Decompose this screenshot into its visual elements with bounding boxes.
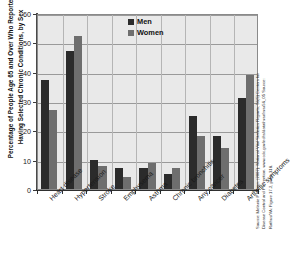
- bar-arthritic-symptoms-women: [246, 75, 254, 189]
- bar-arthritic-symptoms-men: [238, 98, 246, 189]
- chart-figure: Percentage of People Age 65 and Over Who…: [0, 0, 300, 279]
- y-axis-tick-labels: 0102030405060: [14, 12, 34, 190]
- source-line-3: Rathus/VA: Figure 17.2, page 318.: [268, 107, 274, 229]
- y-tick-60: 60: [23, 11, 31, 18]
- y-tick-50: 50: [23, 40, 31, 47]
- bar-hypertension-men: [66, 51, 74, 189]
- x-tickmark-0: [37, 190, 38, 194]
- y-tick-40: 40: [23, 69, 31, 76]
- bar-emphysema-men: [115, 168, 123, 189]
- legend-item-women: Women: [128, 28, 192, 38]
- bar-diabetes-women: [221, 148, 229, 189]
- source-note: Source: Melanie P Heron. (2007). Nationa…: [255, 107, 281, 229]
- y-tick-0: 0: [27, 187, 31, 194]
- legend-label-men: Men: [137, 18, 152, 26]
- y-tick-30: 30: [23, 99, 31, 106]
- legend-label-women: Women: [137, 29, 164, 37]
- legend-swatch-men-icon: [128, 19, 134, 25]
- bar-chronic-bronchitis-women: [172, 168, 180, 189]
- plot-area: [37, 14, 258, 190]
- bar-series-container: [38, 15, 257, 189]
- bar-heart-disease-women: [49, 110, 57, 189]
- legend-swatch-women-icon: [128, 30, 134, 36]
- y-tick-10: 10: [23, 157, 31, 164]
- y-tick-20: 20: [23, 128, 31, 135]
- chart-legend: Men Women: [128, 17, 192, 39]
- source-line-2: Disease Control and Prevention. www.cdc.…: [261, 107, 267, 229]
- legend-item-men: Men: [128, 17, 192, 27]
- bar-heart-disease-men: [41, 80, 49, 189]
